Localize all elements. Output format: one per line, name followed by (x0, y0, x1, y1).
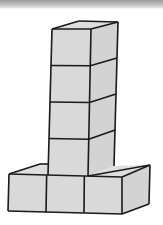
tower-top-edge (79, 21, 118, 22)
base-cube-divider (46, 175, 47, 212)
tower-cube-divider (49, 139, 89, 140)
base-edge (149, 165, 150, 204)
base-front-face (8, 174, 122, 214)
tower-cube-divider (50, 102, 90, 103)
cube-solid-figure (0, 0, 163, 225)
base-edge (8, 174, 9, 211)
base-top-face (9, 164, 48, 175)
